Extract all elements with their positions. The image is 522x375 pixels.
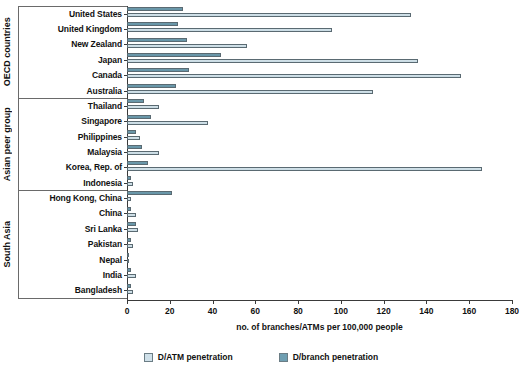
bar-branch-penetration [127, 268, 131, 272]
group-bracket [18, 6, 19, 98]
bar-atm-penetration [127, 290, 133, 294]
bar-atm-penetration [127, 197, 131, 201]
bar-row: Thailand [127, 98, 512, 113]
bar-row: United Kingdom [127, 21, 512, 36]
x-axis-line [127, 300, 512, 301]
bar-branch-penetration [127, 176, 131, 180]
bar-row: Japan [127, 52, 512, 67]
bar-branch-penetration [127, 253, 129, 257]
group-label: Asian peer group [0, 98, 14, 190]
bar-row: Australia [127, 83, 512, 98]
x-axis-tick-label: 0 [125, 306, 130, 316]
category-label: Korea, Rep. of [66, 162, 122, 172]
category-label: China [99, 208, 122, 218]
bar-atm-penetration [127, 28, 332, 32]
bar-row: Nepal [127, 252, 512, 267]
x-axis-tick [213, 300, 214, 304]
category-label: United Kingdom [58, 24, 122, 34]
bar-atm-penetration [127, 90, 373, 94]
group-separator [18, 98, 127, 99]
bar-row: Philippines [127, 129, 512, 144]
bar-row: India [127, 267, 512, 282]
legend-label: D/ATM penetration [158, 352, 233, 362]
x-axis-tick [426, 300, 427, 304]
category-label: Sri Lanka [85, 224, 122, 234]
bar-atm-penetration [127, 213, 136, 217]
legend-item: D/branch penetration [279, 352, 378, 362]
bar-branch-penetration [127, 284, 131, 288]
category-label: India [103, 270, 122, 280]
x-axis-tick [384, 300, 385, 304]
group-bracket [18, 190, 19, 298]
bar-row: Bangladesh [127, 283, 512, 298]
bar-branch-penetration [127, 238, 131, 242]
bar-branch-penetration [127, 53, 221, 57]
bar-branch-penetration [127, 22, 178, 26]
chart-legend: D/ATM penetrationD/branch penetration [0, 352, 522, 362]
bar-atm-penetration [127, 121, 208, 125]
x-axis-tick [469, 300, 470, 304]
x-axis-tick-label: 100 [334, 306, 348, 316]
category-label: Philippines [78, 132, 122, 142]
x-axis-tick-label: 140 [419, 306, 433, 316]
x-axis-tick [255, 300, 256, 304]
x-axis-tick [170, 300, 171, 304]
legend-swatch-atm [144, 353, 153, 362]
bar-atm-penetration [127, 167, 482, 171]
bar-branch-penetration [127, 191, 172, 195]
x-axis-tick-label: 160 [462, 306, 476, 316]
group-label: South Asia [0, 190, 14, 298]
group-label: OECD countries [0, 6, 14, 98]
x-axis-tick-label: 180 [505, 306, 519, 316]
legend-label: D/branch penetration [293, 352, 378, 362]
bar-branch-penetration [127, 68, 189, 72]
bar-atm-penetration [127, 13, 411, 17]
bar-atm-penetration [127, 274, 136, 278]
bar-row: Hong Kong, China [127, 190, 512, 205]
category-label: Singapore [81, 116, 122, 126]
bar-row: Malaysia [127, 144, 512, 159]
category-label: Nepal [99, 255, 122, 265]
category-label: Indonesia [83, 178, 122, 188]
bar-row: Korea, Rep. of [127, 160, 512, 175]
bar-chart: United StatesUnited KingdomNew ZealandJa… [0, 0, 522, 375]
category-label: United States [69, 9, 122, 19]
bar-row: China [127, 206, 512, 221]
category-label: Bangladesh [75, 285, 122, 295]
x-axis-tick [298, 300, 299, 304]
category-label: Thailand [88, 101, 122, 111]
bar-row: United States [127, 6, 512, 21]
x-axis-tick-label: 20 [165, 306, 174, 316]
category-label: Japan [98, 55, 122, 65]
bar-atm-penetration [127, 136, 140, 140]
bar-branch-penetration [127, 38, 187, 42]
category-label: New Zealand [71, 39, 122, 49]
bar-branch-penetration [127, 207, 131, 211]
bar-branch-penetration [127, 84, 176, 88]
x-axis-tick-label: 60 [251, 306, 260, 316]
bar-row: Pakistan [127, 237, 512, 252]
legend-item: D/ATM penetration [144, 352, 233, 362]
bar-atm-penetration [127, 74, 461, 78]
bar-branch-penetration [127, 115, 151, 119]
x-axis-tick-label: 40 [208, 306, 217, 316]
bar-row: New Zealand [127, 37, 512, 52]
bar-branch-penetration [127, 222, 136, 226]
x-axis-tick-label: 80 [293, 306, 302, 316]
category-label: Canada [92, 70, 122, 80]
group-separator [18, 298, 127, 299]
bar-branch-penetration [127, 161, 148, 165]
bar-atm-penetration [127, 259, 129, 263]
bar-row: Canada [127, 67, 512, 82]
x-axis-tick-label: 120 [377, 306, 391, 316]
bar-branch-penetration [127, 7, 183, 11]
bar-atm-penetration [127, 44, 247, 48]
bar-row: Indonesia [127, 175, 512, 190]
bar-branch-penetration [127, 145, 142, 149]
bar-row: Sri Lanka [127, 221, 512, 236]
bar-branch-penetration [127, 130, 136, 134]
category-label: Australia [87, 86, 122, 96]
bar-atm-penetration [127, 182, 133, 186]
bar-atm-penetration [127, 151, 159, 155]
bar-atm-penetration [127, 105, 159, 109]
